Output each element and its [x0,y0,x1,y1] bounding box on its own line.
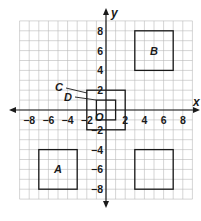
square-label-a: A [53,163,62,175]
coordinate-plane-diagram: x y AB −8−6−4−224688642−2−4−6−8 CD O [0,0,201,221]
y-tick-label: 8 [97,25,103,37]
y-tick-label: 2 [97,84,103,96]
y-tick-label: −2 [91,124,103,136]
y-axis-up-arrow-icon [103,8,109,15]
leader-line-d [75,97,96,100]
x-tick-label: −4 [62,114,74,126]
square-label-d: D [64,91,72,103]
x-axis-left-arrow-icon [9,107,16,113]
y-tick-label: −6 [91,163,103,175]
x-axis-label: x [192,95,201,109]
y-tick-label: 4 [97,64,103,76]
x-tick-label: −6 [42,114,54,126]
y-tick-label: −4 [91,144,103,156]
square-label-c: C [55,81,64,93]
x-tick-label: −8 [23,114,35,126]
leader-labels: CD [55,81,96,103]
x-tick-label: 6 [161,114,167,126]
x-tick-label: 2 [122,114,128,126]
y-tick-label: 6 [97,45,103,57]
axes: x y [9,6,201,208]
square-label-b: B [150,45,158,57]
x-tick-label: 4 [141,114,147,126]
y-axis-label: y [110,6,119,20]
x-tick-label: 8 [180,114,186,126]
y-tick-label: −8 [91,183,103,195]
y-axis-down-arrow-icon [103,201,109,208]
origin-label: O [95,111,104,123]
